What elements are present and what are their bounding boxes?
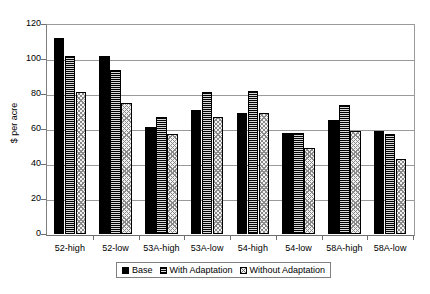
x-tick-mark bbox=[276, 235, 277, 240]
x-tick-mark bbox=[413, 235, 414, 240]
x-tick-label: 53A-low bbox=[184, 243, 230, 254]
bar-with-adaptation bbox=[156, 117, 167, 234]
bar-without-adaptation bbox=[167, 134, 178, 234]
y-tick-label: 20 bbox=[7, 194, 41, 203]
bar-base bbox=[282, 133, 293, 235]
x-tick-mark bbox=[184, 235, 185, 240]
bar-group bbox=[47, 24, 93, 234]
bar-without-adaptation bbox=[76, 92, 87, 234]
x-tick-label: 52-low bbox=[93, 243, 139, 254]
x-tick-label: 53A-high bbox=[139, 243, 185, 254]
bar-with-adaptation bbox=[339, 105, 350, 235]
bar-without-adaptation bbox=[396, 159, 407, 234]
bar-with-adaptation bbox=[65, 56, 76, 235]
legend-item-without-adaptation: Without Adaptation bbox=[240, 265, 326, 275]
y-tick-label: 0 bbox=[7, 229, 41, 238]
legend-label-without-adaptation: Without Adaptation bbox=[250, 265, 326, 275]
legend-swatch-without-adaptation-icon bbox=[240, 267, 247, 274]
x-tick-mark bbox=[139, 235, 140, 240]
y-tick-label: 40 bbox=[7, 159, 41, 168]
y-tick-label: 60 bbox=[7, 124, 41, 133]
bar-without-adaptation bbox=[121, 103, 132, 234]
bar-with-adaptation bbox=[248, 91, 259, 235]
bar-group bbox=[367, 24, 413, 234]
y-tick-label: 120 bbox=[7, 19, 41, 28]
y-tick-label: 100 bbox=[7, 54, 41, 63]
bar-group bbox=[322, 24, 368, 234]
legend-item-base: Base bbox=[122, 265, 153, 275]
bar-base bbox=[191, 110, 202, 234]
bar-group bbox=[276, 24, 322, 234]
bar-base bbox=[99, 56, 110, 235]
y-tick-mark bbox=[41, 199, 46, 200]
bar-without-adaptation bbox=[350, 131, 361, 234]
bar-group bbox=[230, 24, 276, 234]
bar-group bbox=[93, 24, 139, 234]
x-tick-mark bbox=[93, 235, 94, 240]
x-tick-label: 58A-high bbox=[322, 243, 368, 254]
x-tick-label: 58A-low bbox=[367, 243, 413, 254]
x-tick-label: 52-high bbox=[47, 243, 93, 254]
bars-layer bbox=[47, 24, 413, 234]
y-tick-mark bbox=[41, 59, 46, 60]
y-tick-mark bbox=[41, 24, 46, 25]
legend-swatch-base-icon bbox=[122, 267, 129, 274]
bar-with-adaptation bbox=[110, 70, 121, 235]
y-tick-mark bbox=[41, 94, 46, 95]
bar-group bbox=[184, 24, 230, 234]
bar-base bbox=[54, 38, 65, 234]
bar-group bbox=[139, 24, 185, 234]
bar-base bbox=[145, 127, 156, 234]
bar-with-adaptation bbox=[293, 133, 304, 235]
bar-base bbox=[328, 120, 339, 234]
legend-label-base: Base bbox=[132, 265, 153, 275]
bar-without-adaptation bbox=[213, 117, 224, 234]
bar-base bbox=[374, 131, 385, 234]
y-tick-mark bbox=[41, 234, 46, 235]
x-tick-mark bbox=[367, 235, 368, 240]
bar-without-adaptation bbox=[304, 148, 315, 234]
y-tick-mark bbox=[41, 164, 46, 165]
y-tick-label: 80 bbox=[7, 89, 41, 98]
x-tick-label: 54-high bbox=[230, 243, 276, 254]
chart-legend: Base With Adaptation Without Adaptation bbox=[116, 262, 331, 278]
bar-chart: $ per acre 020406080100120 52-high52-low… bbox=[0, 0, 430, 294]
legend-item-with-adaptation: With Adaptation bbox=[160, 265, 233, 275]
bar-with-adaptation bbox=[202, 92, 213, 234]
x-tick-mark bbox=[230, 235, 231, 240]
x-tick-label: 54-low bbox=[276, 243, 322, 254]
x-tick-mark bbox=[322, 235, 323, 240]
bar-base bbox=[237, 113, 248, 234]
y-tick-mark bbox=[41, 129, 46, 130]
bar-with-adaptation bbox=[385, 134, 396, 234]
legend-label-with-adaptation: With Adaptation bbox=[170, 265, 233, 275]
legend-swatch-with-adaptation-icon bbox=[160, 267, 167, 274]
bar-without-adaptation bbox=[259, 113, 270, 234]
